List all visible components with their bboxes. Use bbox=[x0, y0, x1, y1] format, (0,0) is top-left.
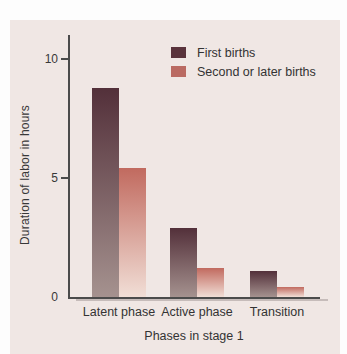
y-tick-label-10: 10 bbox=[34, 52, 58, 66]
chart-panel: Duration of labor in hours 0510 Latent p… bbox=[10, 20, 340, 354]
x-axis-line bbox=[68, 297, 320, 299]
x-axis-title: Phases in stage 1 bbox=[68, 329, 320, 343]
legend-label-second-or-later-births: Second or later births bbox=[197, 65, 316, 79]
y-tick-mark-10 bbox=[61, 58, 68, 60]
y-tick-mark-5 bbox=[61, 177, 68, 179]
bar-second-or-later-births-active-phase bbox=[197, 268, 224, 297]
legend-swatch-second-or-later-births bbox=[171, 66, 186, 77]
legend-item-second-or-later-births: Second or later births bbox=[171, 62, 316, 81]
bar-first-births-transition bbox=[250, 271, 277, 297]
x-axis-shadow bbox=[76, 299, 328, 301]
y-axis-line bbox=[68, 35, 70, 299]
y-tick-label-0: 0 bbox=[34, 290, 58, 304]
bar-second-or-later-births-latent-phase bbox=[119, 168, 146, 297]
bar-first-births-latent-phase bbox=[92, 88, 119, 297]
x-category-label-transition: Transition bbox=[222, 305, 332, 319]
bar-second-or-later-births-transition bbox=[277, 287, 304, 297]
legend-item-first-births: First births bbox=[171, 43, 316, 62]
bar-first-births-active-phase bbox=[170, 228, 197, 297]
legend-swatch-first-births bbox=[171, 47, 186, 58]
legend: First birthsSecond or later births bbox=[171, 43, 316, 81]
legend-label-first-births: First births bbox=[197, 46, 255, 60]
y-axis-title: Duration of labor in hours bbox=[18, 60, 32, 290]
y-tick-label-5: 5 bbox=[34, 171, 58, 185]
